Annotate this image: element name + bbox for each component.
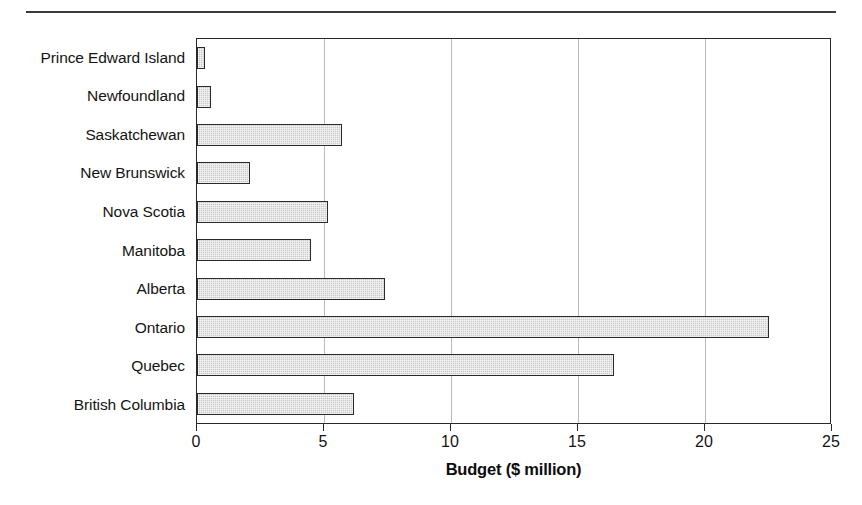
bar-row — [197, 193, 830, 231]
header-rule — [26, 11, 836, 13]
bar-row — [197, 269, 830, 307]
y-axis-label: Newfoundland — [8, 77, 191, 116]
y-axis-label: Nova Scotia — [8, 192, 191, 231]
plot-area — [196, 38, 831, 424]
x-axis-tick — [323, 424, 324, 431]
x-axis-title: Budget ($ million) — [196, 460, 831, 479]
x-axis-tick — [831, 424, 832, 431]
bar — [197, 47, 205, 69]
y-axis-label: Ontario — [8, 308, 191, 347]
y-axis-label: Alberta — [8, 270, 191, 309]
bar-series — [197, 39, 830, 423]
x-axis-tick — [450, 424, 451, 431]
x-axis-tick — [196, 424, 197, 431]
bar-row — [197, 77, 830, 115]
bar-row — [197, 346, 830, 384]
y-axis-label: Quebec — [8, 347, 191, 386]
x-axis-tick-label: 0 — [192, 433, 201, 451]
x-axis-tick-label: 25 — [822, 433, 840, 451]
x-axis-tick-label: 20 — [695, 433, 713, 451]
bar-row — [197, 116, 830, 154]
bar — [197, 239, 311, 261]
x-axis-tick — [577, 424, 578, 431]
chart-figure: Prince Edward IslandNewfoundlandSaskatch… — [0, 0, 862, 505]
y-axis-label: New Brunswick — [8, 154, 191, 193]
bar — [197, 278, 385, 300]
y-axis-label: Manitoba — [8, 231, 191, 270]
bar-row — [197, 154, 830, 192]
x-axis-tick-label: 5 — [319, 433, 328, 451]
y-axis-category-labels: Prince Edward IslandNewfoundlandSaskatch… — [8, 38, 191, 424]
x-axis: 0510152025 — [196, 424, 831, 425]
bar — [197, 201, 328, 223]
x-axis-tick — [704, 424, 705, 431]
y-axis-label: Prince Edward Island — [8, 38, 191, 77]
bar — [197, 393, 354, 415]
bar — [197, 354, 614, 376]
bar-row — [197, 231, 830, 269]
bar — [197, 86, 211, 108]
x-axis-tick-label: 15 — [568, 433, 586, 451]
bar — [197, 162, 250, 184]
x-axis-tick-label: 10 — [441, 433, 459, 451]
y-axis-label: British Columbia — [8, 385, 191, 424]
bar — [197, 316, 769, 338]
bar-row — [197, 308, 830, 346]
bar-row — [197, 39, 830, 77]
bar-row — [197, 385, 830, 423]
bar — [197, 124, 342, 146]
y-axis-label: Saskatchewan — [8, 115, 191, 154]
